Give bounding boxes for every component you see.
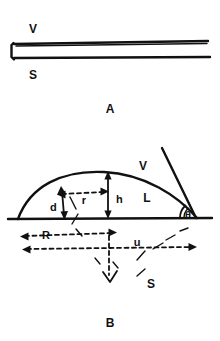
sphere-radius-arrowhead-left <box>20 233 29 241</box>
panel-a-vapor-label: V <box>29 22 37 36</box>
buried-arc-tick-3 <box>166 235 175 240</box>
liquid-label: L <box>143 191 150 205</box>
z-guide-tick-a <box>70 197 76 209</box>
figure-root: V S A h r <box>0 0 220 341</box>
height-label: h <box>116 193 123 205</box>
diameter-arrowhead-right <box>189 243 198 251</box>
panel-b-group: h r d L V θ R <box>8 148 212 330</box>
sphere-radius-measure-line <box>25 233 112 236</box>
panel-b-substrate-label: S <box>147 277 155 291</box>
u-guide-tick <box>95 258 100 264</box>
depth-arrowhead-down <box>103 271 117 282</box>
diagram-canvas: V S A h r <box>0 0 220 341</box>
diameter-label: u <box>134 236 141 248</box>
panel-a-substrate-label: S <box>29 68 37 82</box>
u-guide-tick-b <box>113 262 118 268</box>
panel-b-caption: B <box>106 316 115 330</box>
buried-arc-tick-4 <box>137 269 145 276</box>
radius-label: r <box>82 194 87 206</box>
film-bottom-interface-line <box>14 57 210 58</box>
vapor-tangent-ray <box>162 148 196 218</box>
buried-arc-tick-1 <box>137 251 145 260</box>
sphere-radius-arrowhead-right <box>109 229 118 237</box>
panel-b-vapor-label: V <box>139 159 147 173</box>
arc-position-label: d <box>50 201 57 213</box>
substrate-baseline <box>8 218 212 219</box>
panel-a-caption: A <box>106 102 115 116</box>
contact-angle-label: θ <box>185 209 191 221</box>
buried-arc-tick-5 <box>180 228 188 231</box>
sphere-radius-label: R <box>42 229 50 241</box>
panel-a-group: V S A <box>12 22 211 116</box>
diameter-arrowhead-left <box>22 246 31 254</box>
